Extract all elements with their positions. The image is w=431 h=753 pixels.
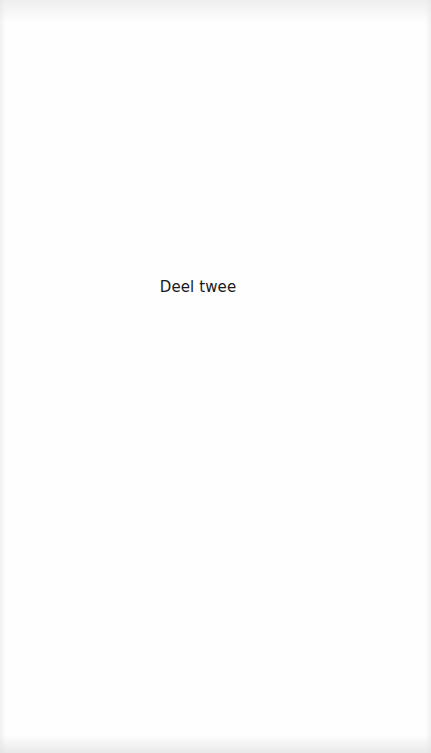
page-edge-left — [0, 0, 6, 753]
page-edge-right — [425, 0, 431, 753]
page-edge-bottom — [0, 735, 431, 753]
page-edge-top — [0, 0, 431, 22]
part-title: Deel twee — [0, 278, 396, 296]
book-page: Deel twee — [0, 0, 431, 753]
